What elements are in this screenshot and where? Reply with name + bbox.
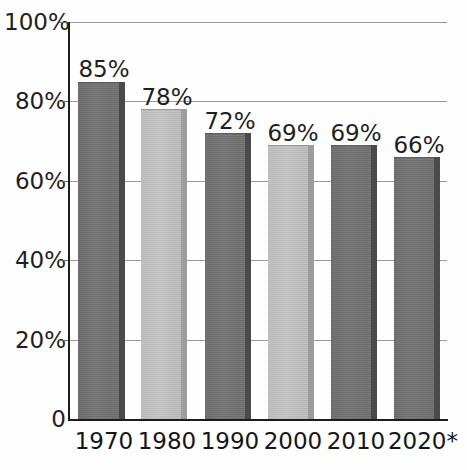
y-tick-label-60: 60% <box>4 168 66 194</box>
bar-2020 <box>394 157 440 419</box>
bar-2020-face <box>394 157 434 419</box>
value-label-1970: 85% <box>70 56 138 82</box>
bar-1980 <box>141 109 187 419</box>
bar-2010 <box>331 145 377 419</box>
x-tick-label-2020: 2020* <box>381 428 465 454</box>
bar-1970 <box>78 82 125 420</box>
bar-1970-side <box>119 82 125 420</box>
bar-2020-side <box>434 157 440 419</box>
value-label-1990: 72% <box>196 108 264 134</box>
y-tick-label-20: 20% <box>4 327 66 353</box>
bar-1990-face <box>205 133 245 419</box>
x-axis-line <box>68 419 448 421</box>
value-label-2020: 66% <box>385 132 453 158</box>
y-tick-mark-40 <box>59 260 68 261</box>
bar-2000-side <box>308 145 314 419</box>
value-label-1980: 78% <box>133 84 201 110</box>
y-tick-mark-20 <box>59 340 68 341</box>
y-axis-labels: 100% 80% 60% 40% 20% 0 <box>0 0 66 470</box>
value-label-2000: 69% <box>259 120 327 146</box>
bar-1990-side <box>245 133 251 419</box>
y-tick-label-100: 100% <box>4 9 66 35</box>
bar-2010-face <box>331 145 371 419</box>
bar-1970-face <box>78 82 119 420</box>
value-label-2010: 69% <box>322 120 390 146</box>
y-tick-mark-100 <box>59 22 68 23</box>
bar-1980-face <box>141 109 181 419</box>
bar-chart: 100% 80% 60% 40% 20% 0 <box>0 0 467 470</box>
y-tick-label-0: 0 <box>4 406 66 432</box>
chart-title-cropped <box>0 0 467 13</box>
bar-1980-side <box>181 109 187 419</box>
y-tick-mark-80 <box>59 101 68 102</box>
y-tick-label-80: 80% <box>4 88 66 114</box>
y-tick-label-40: 40% <box>4 247 66 273</box>
bar-2010-side <box>371 145 377 419</box>
bar-2000 <box>268 145 314 419</box>
gridline-100 <box>68 22 447 23</box>
bar-2000-face <box>268 145 308 419</box>
y-tick-mark-60 <box>59 181 68 182</box>
bar-1990 <box>205 133 251 419</box>
